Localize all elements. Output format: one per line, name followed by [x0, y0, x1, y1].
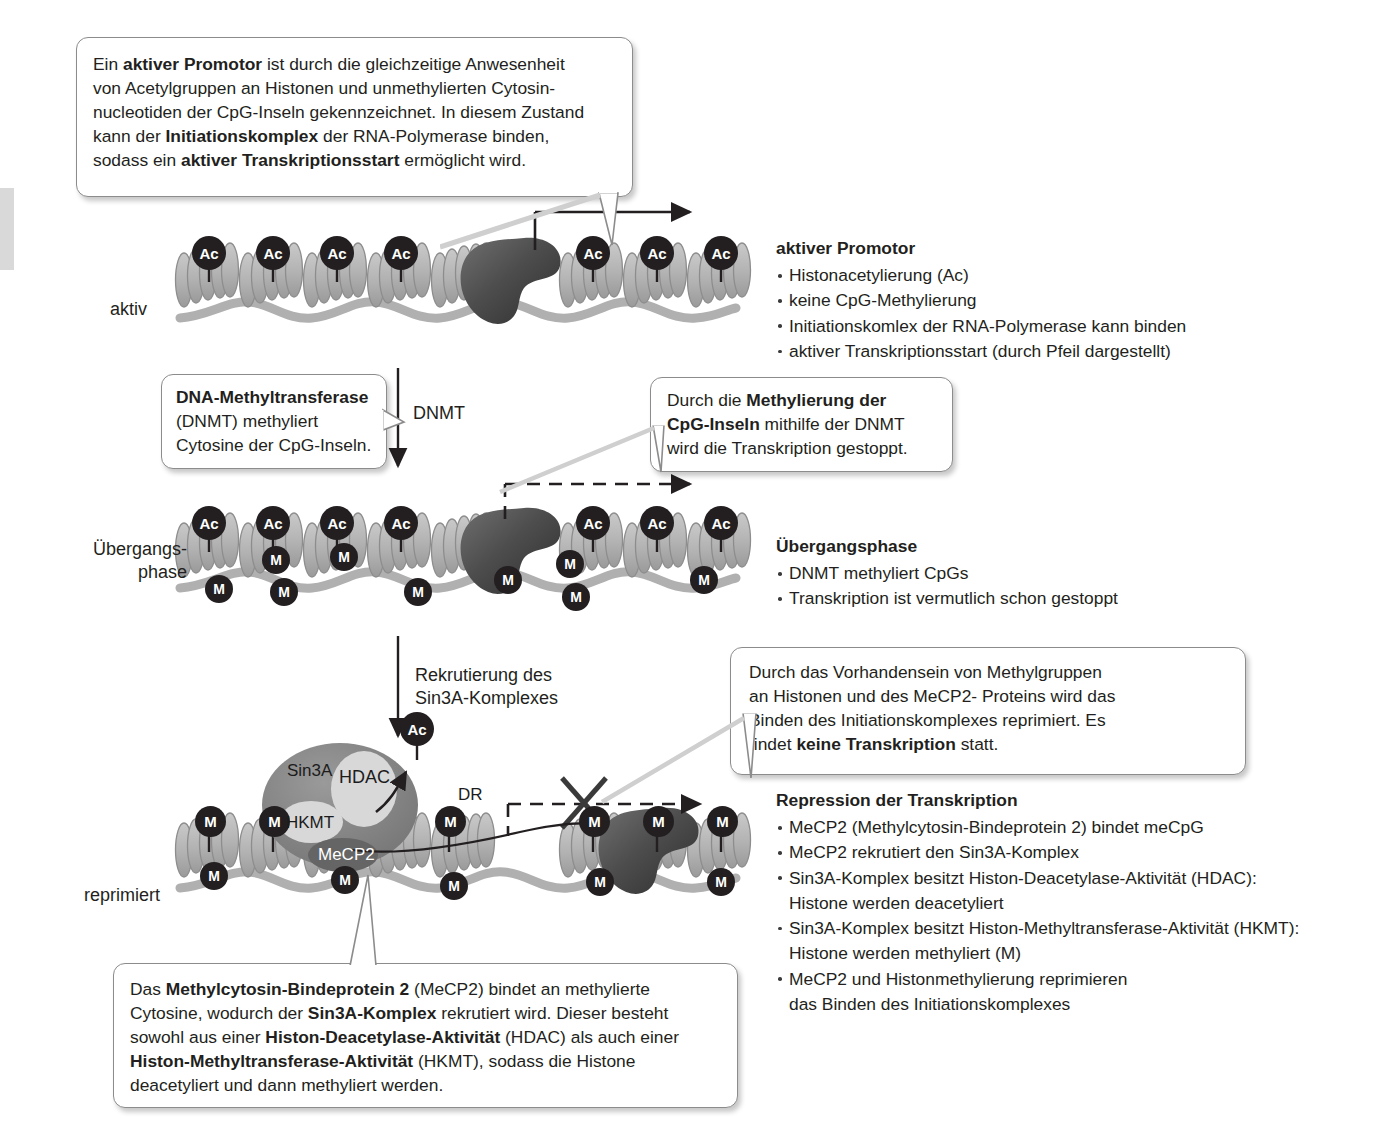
callout-line: DNA-Methyltransferase: [176, 385, 372, 409]
callout-line: Histon-Methyltransferase-Aktivität (HKMT…: [130, 1049, 721, 1073]
callout-line: CpG-Inseln mithilfe der DNMT: [667, 412, 938, 436]
repression-callout-tail: [600, 710, 765, 810]
legend-item: Initiationskomlex der RNA-Polymerase kan…: [776, 314, 1336, 339]
dnmt-arrow-label: DNMT: [413, 402, 465, 425]
sin3a-label: Sin3A: [287, 760, 332, 781]
legend-item: MeCP2 und Histonmethylierung reprimieren: [776, 967, 1356, 992]
legend-active: aktiver Promotor Histonacetylierung (Ac)…: [776, 236, 1336, 364]
chromatin-row-transition: [176, 484, 751, 594]
legend-transition: Übergangsphase DNMT methyliert CpGsTrans…: [776, 534, 1336, 612]
legend-repressed: Repression der Transkription MeCP2 (Meth…: [776, 788, 1356, 1017]
mecp2-callout: Das Methylcytosin-Bindeprotein 2 (MeCP2)…: [113, 963, 738, 1108]
callout-text: Durch das Vorhandensein von Methylgruppe…: [749, 660, 1229, 756]
callout-line: Durch die Methylierung der: [667, 388, 938, 412]
acetyl-tag: Ac: [192, 506, 226, 540]
methyl-tag: M: [562, 583, 590, 611]
active-promoter-callout: Ein aktiver Promotor ist durch die gleic…: [76, 37, 633, 197]
callout-line: kann der Initiationskomplex der RNA-Poly…: [93, 124, 616, 148]
methylation-stop-callout: Durch die Methylierung derCpG-Inseln mit…: [650, 377, 953, 472]
legend-item: DNMT methyliert CpGs: [776, 561, 1336, 586]
methyl-tag: M: [690, 566, 718, 594]
dnmt-callout: DNA-Methyltransferase(DNMT) methyliertCy…: [161, 374, 387, 469]
callout-line: sowohl aus einer Histon-Deacetylase-Akti…: [130, 1025, 721, 1049]
legend-transition-title: Übergangsphase: [776, 534, 1336, 559]
callout-line: wird die Transkription gestoppt.: [667, 436, 938, 460]
callout-line: nucleotiden der CpG-Inseln gekennzeichne…: [93, 100, 616, 124]
acetyl-tag: Ac: [256, 236, 290, 270]
legend-item: aktiver Transkriptionsstart (durch Pfeil…: [776, 339, 1336, 364]
acetyl-tag: Ac: [704, 236, 738, 270]
released-acetyl-tag: Ac: [400, 712, 434, 746]
row-label-transition: Übergangs- phase: [93, 538, 187, 583]
legend-transition-list: DNMT methyliert CpGsTranskription ist ve…: [776, 561, 1336, 611]
methyl-tag: M: [330, 543, 358, 571]
callout-line: (DNMT) methyliert: [176, 409, 372, 433]
row-label-repressed: reprimiert: [84, 884, 160, 907]
hdac-label: HDAC: [339, 766, 390, 789]
active-promoter-callout-tail: [440, 190, 650, 250]
legend-active-title: aktiver Promotor: [776, 236, 1336, 261]
mecp2-label: MeCP2: [318, 844, 375, 865]
acetyl-tag: Ac: [384, 506, 418, 540]
callout-text: Ein aktiver Promotor ist durch die gleic…: [93, 52, 616, 172]
acetyl-tag: Ac: [576, 506, 610, 540]
legend-item: Histonacetylierung (Ac): [776, 263, 1336, 288]
recruitment-label-line2: Sin3A-Komplexes: [415, 687, 558, 710]
callout-line: Cytosine, wodurch der Sin3A-Komplex rekr…: [130, 1001, 721, 1025]
acetyl-tag: Ac: [320, 236, 354, 270]
methyl-tag: M: [440, 872, 468, 900]
callout-line: Cytosine der CpG-Inseln.: [176, 433, 372, 457]
recruitment-arrow-label: Rekrutierung des Sin3A-Komplexes: [415, 664, 558, 709]
methyl-tag: M: [494, 566, 522, 594]
methyl-tag: M: [556, 550, 584, 578]
row-label-transition-line1: Übergangs-: [93, 538, 187, 561]
dr-label: DR: [458, 784, 483, 805]
callout-line: sodass ein aktiver Transkriptionsstart e…: [93, 148, 616, 172]
methyl-tag: M: [643, 806, 674, 837]
methyl-tag: M: [205, 575, 233, 603]
callout-line: an Histonen und des MeCP2- Proteins wird…: [749, 684, 1229, 708]
legend-item: MeCP2 rekrutiert den Sin3A-Komplex: [776, 840, 1356, 865]
acetyl-tag: Ac: [384, 236, 418, 270]
callout-line: Ein aktiver Promotor ist durch die gleic…: [93, 52, 616, 76]
methyl-tag: M: [707, 806, 738, 837]
legend-item: keine CpG-Methylierung: [776, 288, 1336, 313]
recruitment-label-line1: Rekrutierung des: [415, 664, 558, 687]
legend-item: Transkription ist vermutlich schon gesto…: [776, 586, 1336, 611]
methyl-tag: M: [707, 868, 735, 896]
legend-item-continuation: Histone werden methyliert (M): [776, 941, 1356, 966]
acetyl-tag: Ac: [256, 506, 290, 540]
methyl-tag: M: [579, 806, 610, 837]
callout-line: Das Methylcytosin-Bindeprotein 2 (MeCP2)…: [130, 977, 721, 1001]
row-label-active: aktiv: [110, 298, 147, 321]
callout-line: von Acetylgruppen an Histonen und unmeth…: [93, 76, 616, 100]
acetyl-tag: Ac: [640, 506, 674, 540]
callout-line: findet keine Transkription statt.: [749, 732, 1229, 756]
callout-text: Das Methylcytosin-Bindeprotein 2 (MeCP2)…: [130, 977, 721, 1097]
legend-item: Sin3A-Komplex besitzt Histon-Methyltrans…: [776, 916, 1356, 941]
methyl-tag: M: [270, 578, 298, 606]
mecp2-callout-tail: [320, 870, 400, 970]
repression-callout: Durch das Vorhandensein von Methylgruppe…: [730, 647, 1246, 775]
acetyl-tag: Ac: [320, 506, 354, 540]
legend-item-continuation: das Binden des Initiationskomplexes: [776, 992, 1356, 1017]
methyl-tag: M: [195, 806, 226, 837]
callout-text: Durch die Methylierung derCpG-Inseln mit…: [667, 388, 938, 460]
callout-line: Binden des Initiationskomplexes reprimie…: [749, 708, 1229, 732]
legend-repressed-title: Repression der Transkription: [776, 788, 1356, 813]
callout-text: DNA-Methyltransferase(DNMT) methyliertCy…: [176, 385, 372, 457]
acetyl-tag: Ac: [704, 506, 738, 540]
dnmt-callout-tail: [380, 404, 410, 444]
acetyl-tag: Ac: [192, 236, 226, 270]
legend-item: Sin3A-Komplex besitzt Histon-Deacetylase…: [776, 866, 1356, 891]
callout-line: deacetyliert und dann methyliert werden.: [130, 1073, 721, 1097]
methyl-tag: M: [200, 862, 228, 890]
methylation-stop-callout-tail: [498, 420, 673, 500]
methyl-tag: M: [435, 806, 466, 837]
methyl-tag: M: [586, 868, 614, 896]
legend-item-continuation: Histone werden deacetyliert: [776, 891, 1356, 916]
methyl-tag: M: [262, 546, 290, 574]
legend-repressed-list: MeCP2 (Methylcytosin-Bindeprotein 2) bin…: [776, 815, 1356, 1017]
methyl-tag: M: [404, 578, 432, 606]
legend-item: MeCP2 (Methylcytosin-Bindeprotein 2) bin…: [776, 815, 1356, 840]
